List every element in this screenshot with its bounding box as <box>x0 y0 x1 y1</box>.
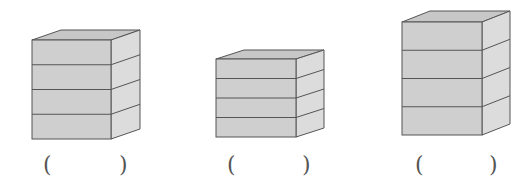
stack-1 <box>32 30 140 139</box>
stack-3 <box>402 11 510 135</box>
open-paren: ( <box>43 154 52 176</box>
close-paren: ) <box>489 154 498 176</box>
open-paren: ( <box>227 154 236 176</box>
stack-2 <box>216 50 324 137</box>
close-paren: ) <box>119 154 128 176</box>
stacked-boxes-figure <box>0 0 531 193</box>
close-paren: ) <box>302 154 311 176</box>
open-paren: ( <box>415 154 424 176</box>
